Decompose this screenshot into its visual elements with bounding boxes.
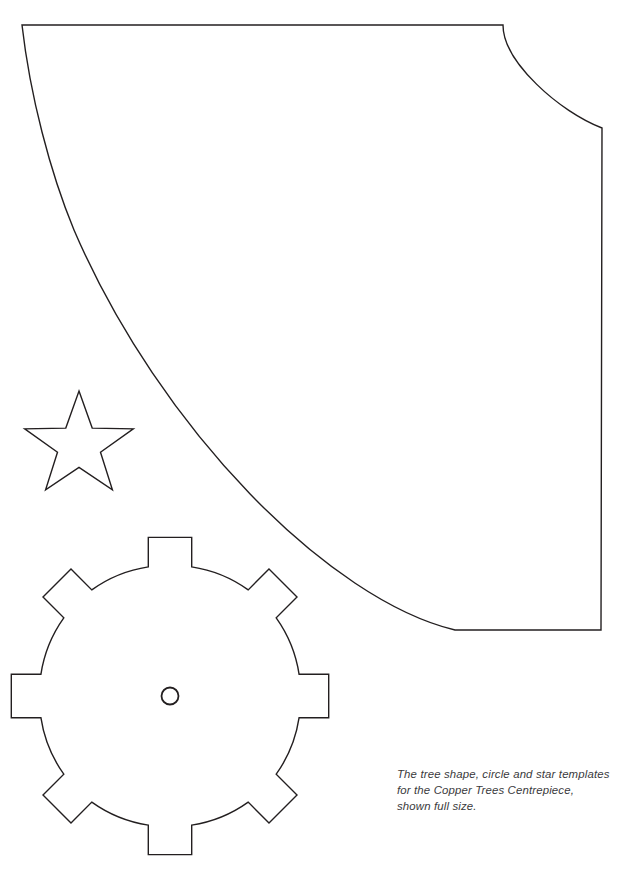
caption-line-2: for the Copper Trees Centrepiece,: [397, 782, 612, 798]
tree-cone-template-shape: [22, 25, 602, 630]
caption-line-3: shown full size.: [397, 798, 612, 814]
template-drawing-canvas: [0, 0, 627, 876]
template-page: The tree shape, circle and star template…: [0, 0, 627, 876]
caption-line-1: The tree shape, circle and star template…: [397, 766, 612, 782]
template-caption: The tree shape, circle and star template…: [397, 766, 612, 815]
star-template-shape: [25, 391, 134, 490]
circle-centre-hole: [162, 688, 179, 705]
